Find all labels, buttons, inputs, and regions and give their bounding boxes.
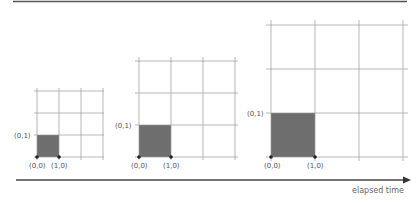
x-unit-label: (1,0) <box>163 162 180 170</box>
origin-label: (0,0) <box>264 162 281 170</box>
time-axis: elapsed time <box>16 177 411 196</box>
origin-label: (0,0) <box>29 162 46 170</box>
unit-cell <box>271 113 315 157</box>
panel-medium: (0,0) (1,0) (0,1) <box>115 57 238 170</box>
origin-point <box>137 155 141 159</box>
diagram-canvas: (0,0) (1,0) (0,1) (0,0) (1,0) (0,1) <box>0 0 417 203</box>
x-unit-point <box>169 155 173 159</box>
x-unit-label: (1,0) <box>307 162 324 170</box>
unit-cell <box>37 135 59 157</box>
panel-large: (0,0) (1,0) (0,1) <box>247 20 408 170</box>
origin-point <box>35 155 39 159</box>
unit-cell <box>139 125 171 157</box>
x-unit-point <box>57 155 61 159</box>
x-unit-label: (1,0) <box>51 162 68 170</box>
x-unit-point <box>313 155 317 159</box>
y-unit-label: (0,1) <box>247 110 264 118</box>
time-axis-label: elapsed time <box>352 186 404 195</box>
panel-small: (0,0) (1,0) (0,1) <box>14 88 104 170</box>
arrow-head-icon <box>403 177 411 184</box>
origin-label: (0,0) <box>131 162 148 170</box>
origin-point <box>269 155 273 159</box>
y-unit-label: (0,1) <box>115 122 132 130</box>
y-unit-label: (0,1) <box>14 132 31 140</box>
